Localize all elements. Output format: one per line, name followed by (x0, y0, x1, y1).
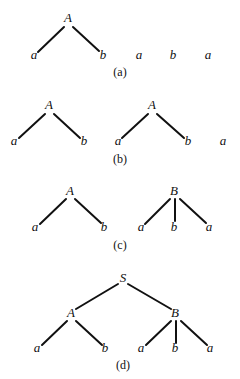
nonterminal-node: A (44, 97, 53, 112)
terminal-leaf: a (138, 340, 145, 355)
panel-d: SABababa (d) (34, 270, 214, 372)
tree-edge (75, 199, 101, 223)
terminal-leaf: a (206, 219, 213, 234)
nonterminal-node: B (171, 305, 179, 320)
terminal-leaf: b (170, 47, 177, 62)
terminal-leaf: a (205, 47, 212, 62)
terminal-leaf: b (100, 47, 107, 62)
panel-a: Aababa (a) (31, 10, 212, 79)
terminal-leaf: a (138, 219, 145, 234)
nonterminal-node: S (120, 270, 127, 285)
tree-edge (54, 114, 80, 138)
panel-d-nodes: SABababa (34, 270, 214, 355)
terminal-leaf: a (11, 133, 18, 148)
nonterminal-node: A (66, 305, 75, 320)
tree-edge (145, 199, 170, 224)
terminal-leaf: a (115, 133, 122, 148)
tree-edge (181, 321, 207, 345)
tree-edge (122, 114, 148, 138)
terminal-leaf: a (136, 47, 143, 62)
panel-b-edges (19, 114, 184, 138)
tree-edge (157, 114, 184, 138)
terminal-leaf: b (81, 133, 88, 148)
terminal-leaf: a (32, 219, 39, 234)
tree-edge (128, 284, 171, 309)
panel-c-caption: (c) (113, 238, 126, 252)
panel-a-caption: (a) (113, 65, 126, 79)
terminal-leaf: a (207, 340, 214, 355)
terminal-leaf: b (171, 219, 178, 234)
panel-b: AabAaba (b) (11, 97, 227, 166)
tree-edge (76, 321, 102, 345)
tree-edge (38, 27, 64, 52)
tree-edge (76, 284, 118, 309)
panel-c-nodes: AabBaba (32, 183, 213, 234)
tree-edge (73, 27, 99, 51)
terminal-leaf: a (220, 133, 227, 148)
tree-edge (40, 199, 66, 224)
panel-d-caption: (d) (116, 358, 130, 372)
terminal-leaf: a (31, 47, 38, 62)
terminal-leaf: b (101, 219, 108, 234)
nonterminal-node: B (170, 183, 178, 198)
panel-c-edges (40, 199, 206, 224)
terminal-leaf: b (185, 133, 192, 148)
tree-edge (180, 199, 206, 223)
nonterminal-node: A (65, 183, 74, 198)
nonterminal-node: A (147, 97, 156, 112)
panel-b-nodes: AabAaba (11, 97, 227, 148)
tree-edge (42, 321, 67, 345)
tree-edge (19, 114, 45, 138)
panel-c: AabBaba (c) (32, 183, 213, 252)
terminal-leaf: b (172, 340, 179, 355)
panel-b-caption: (b) (113, 152, 127, 166)
tree-edge (146, 321, 171, 345)
parse-tree-diagram: Aababa (a) AabAaba (b) AabBaba (c) SABab… (0, 0, 240, 379)
panel-a-nodes: Aababa (31, 10, 212, 62)
nonterminal-node: A (63, 10, 72, 25)
terminal-leaf: a (34, 340, 41, 355)
panel-a-edges (38, 27, 99, 52)
terminal-leaf: b (102, 340, 109, 355)
